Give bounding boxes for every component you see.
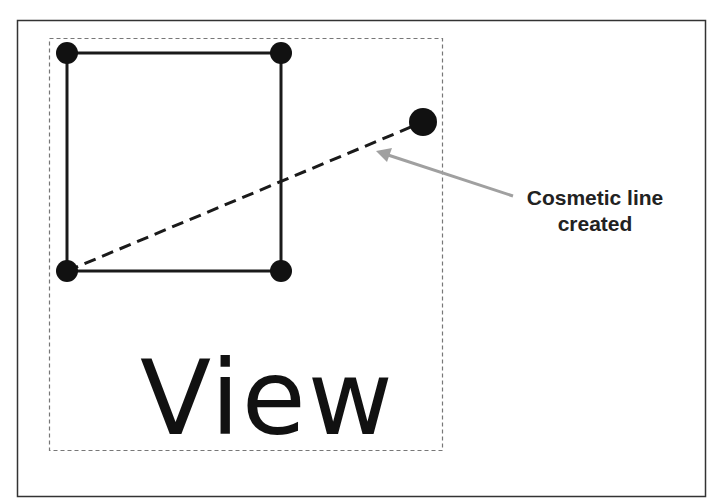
cosmetic-line[interactable] [67,122,423,271]
vertex-bottom-left[interactable] [56,260,78,282]
callout-arrow-icon [376,148,513,196]
callout-line-2: created [505,211,685,237]
vertex-top-right[interactable] [270,42,292,64]
vertex-top-left[interactable] [56,42,78,64]
view-label: View [140,343,395,453]
callout-text: Cosmetic line created [505,185,685,237]
vertex-bottom-right[interactable] [270,260,292,282]
cosmetic-endpoint[interactable] [409,108,437,136]
callout-line-1: Cosmetic line [505,185,685,211]
square-shape[interactable] [67,53,281,271]
